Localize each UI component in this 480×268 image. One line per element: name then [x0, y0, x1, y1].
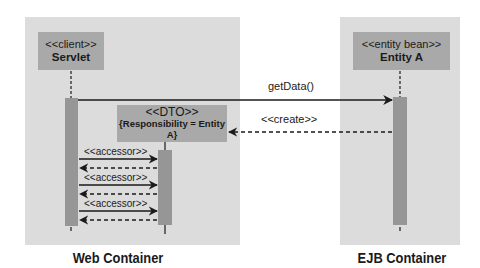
servlet-name: Servlet	[52, 51, 90, 64]
dto-stereotype: <<DTO>>	[145, 106, 198, 120]
accessor-label-1: <<accessor>>	[84, 146, 147, 157]
getdata-label: getData()	[268, 80, 314, 92]
entity-object: <<entity bean>> Entity A	[353, 32, 450, 70]
entity-stereotype: <<entity bean>>	[362, 38, 442, 51]
ejb-container-label: EJB Container	[347, 250, 457, 266]
servlet-stereotype: <<client>>	[45, 38, 96, 51]
dto-note: {Responsibility = Entity A}	[117, 119, 227, 141]
web-container-label: Web Container	[63, 250, 173, 266]
create-label: <<create>>	[261, 113, 317, 125]
servlet-object: <<client>> Servlet	[38, 32, 104, 70]
entity-name: Entity A	[380, 51, 423, 64]
dto-object: <<DTO>> {Responsibility = Entity A}	[117, 105, 227, 142]
dto-activation	[158, 150, 172, 225]
accessor-label-2: <<accessor>>	[84, 172, 147, 183]
accessor-label-3: <<accessor>>	[84, 198, 147, 209]
entity-activation	[393, 97, 407, 225]
servlet-activation	[65, 98, 78, 226]
